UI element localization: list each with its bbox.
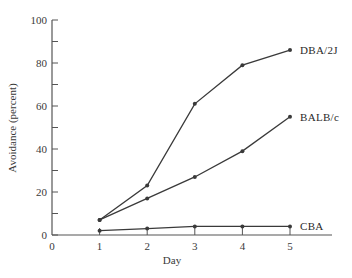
series-dba-2j: DBA/2J bbox=[98, 44, 339, 222]
series-label: CBA bbox=[300, 220, 324, 232]
data-point bbox=[288, 115, 292, 119]
series-line bbox=[100, 50, 290, 220]
x-tick-label: 0 bbox=[49, 240, 55, 252]
x-tick-label: 1 bbox=[97, 240, 103, 252]
x-tick-label: 4 bbox=[240, 240, 246, 252]
series-label: DBA/2J bbox=[300, 44, 338, 56]
y-tick-label: 60 bbox=[36, 100, 48, 112]
y-tick-label: 40 bbox=[36, 143, 48, 155]
data-point bbox=[145, 184, 149, 188]
data-point bbox=[288, 224, 292, 228]
y-tick-label: 0 bbox=[42, 229, 48, 241]
line-chart: 020406080100012345 DBA/2JBALB/cCBA Day A… bbox=[0, 0, 352, 278]
data-point bbox=[240, 63, 244, 67]
y-tick-label: 80 bbox=[36, 57, 48, 69]
data-point bbox=[288, 48, 292, 52]
x-tick-label: 3 bbox=[192, 240, 198, 252]
y-tick-label: 20 bbox=[36, 186, 48, 198]
data-point bbox=[193, 224, 197, 228]
series-line bbox=[100, 117, 290, 220]
x-axis-title: Day bbox=[163, 254, 182, 266]
y-tick-label: 100 bbox=[31, 14, 48, 26]
data-point bbox=[98, 229, 102, 233]
series-balb-c: BALB/c bbox=[98, 111, 339, 222]
data-point bbox=[240, 149, 244, 153]
data-point bbox=[193, 175, 197, 179]
data-point bbox=[145, 227, 149, 231]
y-axis-title: Avoidance (percent) bbox=[6, 83, 19, 173]
data-point bbox=[145, 196, 149, 200]
data-point bbox=[240, 224, 244, 228]
data-point bbox=[193, 102, 197, 106]
series-group: DBA/2JBALB/cCBA bbox=[98, 44, 339, 233]
series-label: BALB/c bbox=[300, 111, 339, 123]
axes: 020406080100012345 bbox=[31, 14, 333, 252]
x-tick-label: 2 bbox=[144, 240, 150, 252]
x-tick-label: 5 bbox=[287, 240, 293, 252]
data-point bbox=[98, 218, 102, 222]
